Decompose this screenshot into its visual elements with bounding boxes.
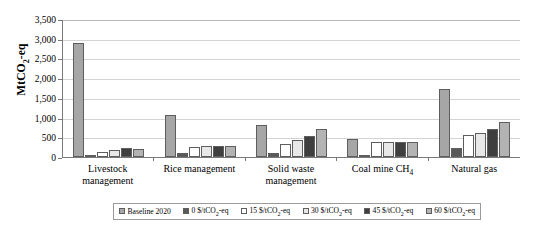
bar	[85, 155, 96, 157]
bar	[133, 149, 144, 157]
bar	[439, 89, 450, 157]
bar-chart: MtCO2-eq 05001,0001,5002,0002,5003,0003,…	[0, 0, 543, 232]
y-tick-label: 1,500	[35, 94, 56, 104]
bar-groups	[63, 20, 520, 157]
plot-area	[62, 20, 520, 158]
bar	[395, 142, 406, 157]
legend-label: 0 $/tCO2-eq	[192, 206, 229, 217]
bar	[201, 146, 212, 157]
legend-label: 45 $/tCO2-eq	[373, 206, 414, 217]
x-category-label: Coal mine CH4	[337, 163, 429, 186]
bar	[451, 148, 462, 157]
y-tick-label: 2,500	[35, 54, 56, 64]
bar	[487, 129, 498, 157]
legend-label: 15 $/tCO2-eq	[249, 206, 290, 217]
legend-item[interactable]: 0 $/tCO2-eq	[183, 206, 228, 217]
bar	[499, 122, 510, 157]
bar	[73, 43, 84, 157]
bar	[316, 129, 327, 157]
y-tick-label: 3,500	[35, 15, 56, 25]
bar-group	[337, 20, 428, 157]
bar	[213, 146, 224, 157]
bar-group	[63, 20, 154, 157]
legend-swatch-icon	[364, 208, 370, 214]
legend-item[interactable]: 15 $/tCO2-eq	[241, 206, 290, 217]
bar	[371, 142, 382, 157]
x-category-label: Rice management	[154, 163, 246, 186]
chart-legend: Baseline 20200 $/tCO2-eq15 $/tCO2-eq30 $…	[113, 203, 481, 220]
bar	[97, 152, 108, 157]
legend-item[interactable]: Baseline 2020	[119, 207, 171, 216]
legend-swatch-icon	[241, 208, 247, 214]
bar	[225, 146, 236, 157]
bar	[268, 153, 279, 157]
legend-item[interactable]: 45 $/tCO2-eq	[364, 206, 413, 217]
bar	[121, 148, 132, 157]
legend-swatch-icon	[183, 208, 189, 214]
bar-group	[154, 20, 245, 157]
bar	[165, 115, 176, 157]
legend-swatch-icon	[303, 208, 309, 214]
y-tick-mark	[58, 158, 62, 159]
y-tick-label: 1,000	[35, 114, 56, 124]
y-tick-label: 0	[51, 153, 56, 163]
legend-item[interactable]: 30 $/tCO2-eq	[303, 206, 352, 217]
bar	[189, 147, 200, 157]
legend-label: Baseline 2020	[128, 207, 171, 216]
y-tick-label: 500	[42, 133, 56, 143]
bar	[359, 155, 370, 157]
bar	[347, 139, 358, 157]
legend-item[interactable]: 60 $/tCO2-eq	[426, 206, 475, 217]
bar	[304, 136, 315, 157]
x-category-label: Solid waste management	[245, 163, 337, 186]
y-axis-ticks: 05001,0001,5002,0002,5003,0003,500	[0, 0, 62, 178]
x-axis-categories: Livestock managementRice managementSolid…	[62, 163, 520, 186]
bar	[475, 133, 486, 157]
legend-swatch-icon	[426, 208, 432, 214]
bar-group	[246, 20, 337, 157]
legend-swatch-icon	[119, 208, 125, 214]
x-category-label: Livestock management	[62, 163, 154, 186]
bar-group	[429, 20, 520, 157]
x-category-label: Natural gas	[428, 163, 520, 186]
bar	[383, 142, 394, 157]
bar	[280, 144, 291, 157]
bar	[407, 142, 418, 157]
legend-label: 60 $/tCO2-eq	[434, 206, 475, 217]
bar	[109, 150, 120, 157]
bar	[177, 153, 188, 157]
bar	[256, 125, 267, 157]
legend-label: 30 $/tCO2-eq	[311, 206, 352, 217]
bar	[292, 140, 303, 157]
y-tick-label: 3,000	[35, 35, 56, 45]
bar	[463, 135, 474, 157]
y-tick-label: 2,000	[35, 74, 56, 84]
